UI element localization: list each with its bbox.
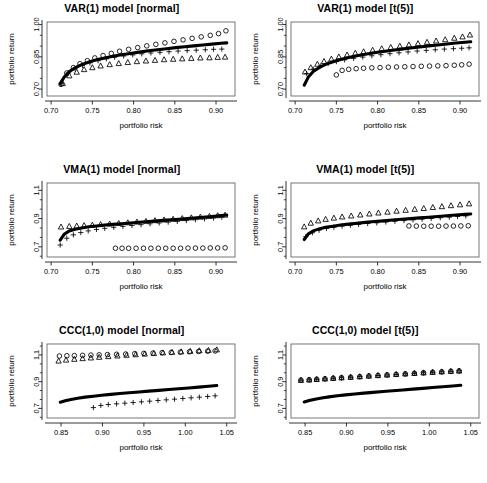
- frontier-line: [60, 386, 217, 403]
- x-tick-label: 0.70: [287, 106, 301, 115]
- plus-marker: [91, 405, 96, 410]
- triangle-marker: [357, 212, 362, 217]
- x-tick-label: 0.85: [411, 106, 425, 115]
- x-tick-label: 0.80: [370, 267, 384, 276]
- triangle-marker: [402, 207, 407, 212]
- x-tick-label: 0.70: [287, 267, 301, 276]
- circle-marker: [199, 35, 204, 40]
- plot-area: 0.850.900.951.001.050.70.91.1portfolio r…: [244, 336, 487, 483]
- circle-marker: [178, 246, 183, 251]
- figure-canvas: VAR(1) model [normal]0.700.750.800.850.9…: [0, 0, 487, 483]
- circle-marker: [208, 246, 213, 251]
- plus-marker: [414, 48, 419, 53]
- plus-marker: [176, 48, 181, 53]
- plus-marker: [114, 401, 119, 406]
- circle-marker: [465, 223, 470, 228]
- plus-marker: [213, 393, 218, 398]
- circle-marker: [394, 65, 399, 70]
- y-tick-label: 0.7: [32, 242, 41, 252]
- circle-marker: [361, 66, 366, 71]
- triangle-marker: [161, 57, 166, 62]
- x-tick-label: 0.90: [209, 106, 223, 115]
- triangle-marker: [189, 55, 194, 60]
- y-tick-label: 0.70: [32, 82, 41, 96]
- circle-marker: [427, 64, 432, 69]
- x-tick-label: 0.95: [137, 428, 151, 437]
- circle-marker: [190, 36, 195, 41]
- data-layer: [56, 347, 220, 410]
- frontier-line: [304, 385, 461, 402]
- triangle-marker: [315, 218, 320, 223]
- plus-marker: [180, 396, 185, 401]
- plot-area: 0.850.900.951.001.050.70.91.1portfolio r…: [0, 336, 244, 483]
- x-tick-label: 0.80: [370, 106, 384, 115]
- circle-marker: [369, 66, 374, 71]
- x-axis-title: portfolio risk: [363, 121, 407, 130]
- triangle-marker: [58, 224, 63, 229]
- circle-marker: [171, 246, 176, 251]
- triangle-marker: [412, 206, 417, 211]
- triangle-marker: [348, 213, 353, 218]
- x-tick-label: 0.90: [339, 428, 353, 437]
- triangle-marker: [457, 202, 462, 207]
- x-tick-label: 0.95: [380, 428, 394, 437]
- plus-marker: [131, 400, 136, 405]
- x-tick-label: 0.90: [452, 267, 466, 276]
- plus-marker: [211, 47, 216, 52]
- circle-marker: [428, 224, 433, 229]
- y-tick-label: 1.00: [32, 17, 41, 31]
- plus-marker: [147, 399, 152, 404]
- circle-marker: [414, 224, 419, 229]
- circle-marker: [193, 246, 198, 251]
- x-tick-label: 0.75: [329, 267, 343, 276]
- triangle-marker: [170, 56, 175, 61]
- triangle-marker: [433, 38, 438, 43]
- y-tick-label: 0.9: [275, 213, 284, 223]
- triangle-marker: [180, 56, 185, 61]
- circle-marker: [141, 246, 146, 251]
- x-axis-title: portfolio risk: [119, 443, 163, 452]
- triangle-marker: [215, 54, 220, 59]
- triangle-marker: [98, 63, 103, 68]
- y-tick-label: 0.85: [275, 50, 284, 64]
- x-tick-label: 0.80: [126, 106, 140, 115]
- triangle-marker: [442, 37, 447, 42]
- triangle-marker: [143, 58, 148, 63]
- x-tick-label: 0.80: [126, 267, 140, 276]
- circle-marker: [172, 39, 177, 44]
- y-tick-label: 0.9: [275, 377, 284, 387]
- chart-panel-4: VMA(1) model [t(5)]0.700.750.800.850.900…: [244, 161, 487, 322]
- triangle-marker: [459, 34, 464, 39]
- plus-marker: [155, 398, 160, 403]
- x-tick-label: 1.05: [220, 428, 234, 437]
- circle-marker: [459, 63, 464, 68]
- triangle-marker: [388, 44, 393, 49]
- plus-marker: [98, 403, 103, 408]
- y-tick-label: 1.1: [32, 350, 41, 360]
- chart-panel-2: VAR(1) model [t(5)]0.700.750.800.850.900…: [244, 0, 487, 161]
- circle-marker: [418, 64, 423, 69]
- y-tick-label: 0.85: [32, 50, 41, 64]
- circle-marker: [436, 224, 441, 229]
- triangle-marker: [336, 54, 341, 59]
- circle-marker: [120, 246, 125, 251]
- circle-marker: [57, 354, 62, 359]
- plus-marker: [189, 395, 194, 400]
- x-axis-title: portfolio risk: [119, 121, 163, 130]
- y-tick-label: 0.7: [32, 403, 41, 413]
- y-axis-title: portfolio return: [7, 355, 16, 407]
- circle-marker: [201, 246, 206, 251]
- triangle-marker: [134, 59, 139, 64]
- plus-marker: [459, 46, 464, 51]
- x-tick-label: 0.85: [168, 267, 182, 276]
- plus-marker: [185, 48, 190, 53]
- plus-marker: [423, 48, 428, 53]
- triangle-marker: [344, 52, 349, 57]
- triangle-marker: [424, 39, 429, 44]
- triangle-marker: [222, 54, 227, 59]
- circle-marker: [215, 246, 220, 251]
- x-tick-label: 1.00: [422, 428, 436, 437]
- triangle-marker: [198, 55, 203, 60]
- y-axis-title: portfolio return: [251, 194, 260, 246]
- circle-marker: [406, 224, 411, 229]
